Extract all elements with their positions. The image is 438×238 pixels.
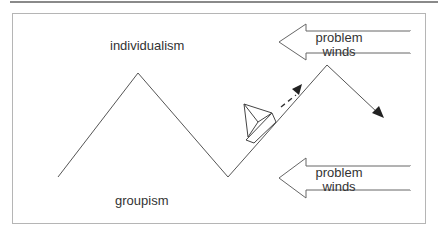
individualism-label: individualism	[110, 38, 184, 53]
path-arrowhead-icon	[372, 106, 384, 118]
sailboat-icon	[244, 104, 276, 143]
wind-label-bottom: problem winds	[309, 166, 369, 194]
wind-label-top: problem winds	[309, 31, 369, 59]
movement-dashed-line	[281, 95, 296, 107]
groupism-label: groupism	[115, 193, 168, 208]
wind-label-top-line1: problem	[309, 31, 369, 45]
movement-arrowhead-icon	[292, 84, 302, 95]
diagram-canvas	[0, 0, 438, 238]
wind-label-top-line2: winds	[309, 45, 369, 59]
wind-label-bottom-line1: problem	[309, 166, 369, 180]
zigzag-path	[58, 65, 378, 177]
wind-label-bottom-line2: winds	[309, 180, 369, 194]
